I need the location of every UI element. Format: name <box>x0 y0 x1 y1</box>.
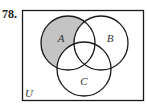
label-c: C <box>80 75 88 87</box>
label-b: B <box>107 32 114 44</box>
venn-diagram: A B C U <box>0 0 147 107</box>
label-universe: U <box>25 87 34 99</box>
label-a: A <box>57 32 65 44</box>
